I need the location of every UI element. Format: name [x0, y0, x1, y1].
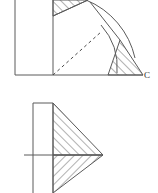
- sweep-arc-outer: [86, 0, 135, 58]
- bottom-figure: [24, 99, 108, 193]
- top-figure: C: [15, 0, 150, 80]
- upper-triangle-hatch: [50, 99, 108, 159]
- figure-sheet: C: [0, 0, 158, 193]
- geometry-diagram-canvas: C: [0, 0, 158, 193]
- point-c-label: C: [144, 70, 150, 80]
- dashed-radius: [53, 32, 101, 75]
- start-triangle-hatch: [50, 0, 94, 22]
